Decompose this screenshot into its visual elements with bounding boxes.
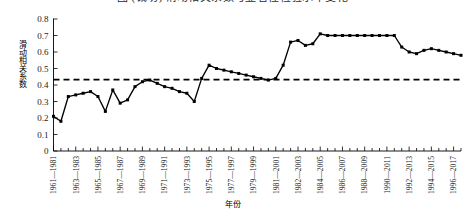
y-tick-label: 0.1 [37,130,48,140]
x-tick-label-group: 1992—2013 [405,156,414,194]
y-tick-label: 0.6 [37,47,49,57]
x-tick-label: 1988—2009 [360,156,369,194]
y-tick-label: 0.4 [37,80,49,90]
x-tick-label: 1979—1999 [249,156,258,194]
series-data-point [363,34,366,37]
x-tick-label-group: 1984—2005 [316,156,325,194]
x-tick-label: 1994—2015 [427,156,436,194]
x-tick-label: 1981—2001 [272,156,281,194]
series-data-point [445,51,448,54]
series-data-point [134,85,137,88]
x-tick-label-group: 1963—1983 [72,156,81,194]
series-data-point [259,77,262,80]
series-data-point [74,93,77,96]
series-data-point [230,70,233,73]
series-data-point [326,34,329,37]
series-data-point [408,51,411,54]
series-data-point [422,49,425,52]
series-data-point [400,46,403,49]
series-data-point [52,115,55,118]
series-data-point [252,75,255,78]
series-data-point [156,82,159,85]
series-data-point [348,34,351,37]
x-tick-label: 1975—1995 [205,156,214,194]
series-data-point [208,64,211,67]
x-tick-label-group: 1981—2001 [272,156,281,194]
series-data-point [67,95,70,98]
x-tick-label-group: 1986—2007 [338,156,347,194]
x-tick-label: 1977—1997 [227,156,236,194]
series-data-point [215,67,218,70]
x-tick-label-group: 1965—1985 [94,156,103,194]
series-data-point [104,110,107,113]
series-data-point [356,34,359,37]
x-tick-label-group: 1988—2009 [360,156,369,194]
x-tick-label-group: 1979—1999 [249,156,258,194]
series-data-point [148,79,151,82]
series-data-point [385,34,388,37]
y-tick-label: 0 [44,146,49,156]
series-data-point [163,85,166,88]
x-tick-label: 1990—2011 [383,156,392,194]
series-data-point [371,34,374,37]
series-data-point [178,90,181,93]
series-data-point [267,79,270,82]
x-tick-label-group: 1977—1997 [227,156,236,194]
series-data-point [430,47,433,50]
x-tick-label: 1992—2013 [405,156,414,194]
plot-area: 00.10.20.30.40.50.60.70.81961—19811963—1… [0,0,465,220]
series-data-point [237,72,240,75]
series-data-point [59,120,62,123]
x-tick-label-group: 1996—2017 [449,156,458,194]
x-tick-label: 1965—1985 [94,156,103,194]
x-tick-label-group: 1973—1993 [183,156,192,194]
x-tick-label: 1973—1993 [183,156,192,194]
series-data-point [297,39,300,42]
x-tick-label: 1996—2017 [449,156,458,194]
x-tick-label: 1969—1989 [138,156,147,194]
x-tick-label-group: 1971—1991 [160,156,169,194]
x-tick-label: 1963—1983 [72,156,81,194]
series-data-point [111,88,114,91]
series-data-point [437,49,440,52]
series-data-point [319,32,322,35]
x-tick-label: 1986—2007 [338,156,347,194]
series-data-point [245,74,248,77]
series-data-point [393,34,396,37]
x-tick-label: 1961—1981 [49,156,58,194]
y-tick-label: 0.5 [37,64,49,74]
x-tick-label-group: 1969—1989 [138,156,147,194]
series-data-point [334,34,337,37]
y-tick-label: 0.3 [37,97,49,107]
x-tick-label: 1982—2003 [294,156,303,194]
series-data-point [222,69,225,72]
chart-figure: 图 (裁切) 滑动相关系数与显著性检验水平变化 滑动相关系数 年份 00.10.… [0,0,465,220]
x-tick-label-group: 1990—2011 [383,156,392,194]
series-data-point [126,98,129,101]
series-data-point [96,95,99,98]
series-data-point [311,42,314,45]
series-data-point [415,52,418,55]
series-data-point [119,102,122,105]
series-data-point [289,41,292,44]
x-tick-label-group: 1994—2015 [427,156,436,194]
series-data-point [378,34,381,37]
x-tick-label-group: 1961—1981 [49,156,58,194]
y-tick-label: 0.2 [37,113,48,123]
x-tick-label-group: 1982—2003 [294,156,303,194]
series-data-point [452,52,455,55]
x-tick-label: 1984—2005 [316,156,325,194]
series-line-sliding-correlation [54,34,462,121]
series-data-point [282,64,285,67]
y-tick-label: 0.8 [37,14,49,24]
series-data-point [460,54,463,57]
x-tick-label-group: 1967—1987 [116,156,125,194]
x-tick-label-group: 1975—1995 [205,156,214,194]
series-data-point [193,100,196,103]
series-data-point [304,44,307,47]
series-data-point [141,80,144,83]
series-data-point [341,34,344,37]
x-tick-label: 1967—1987 [116,156,125,194]
series-data-point [171,87,174,90]
series-data-point [200,77,203,80]
